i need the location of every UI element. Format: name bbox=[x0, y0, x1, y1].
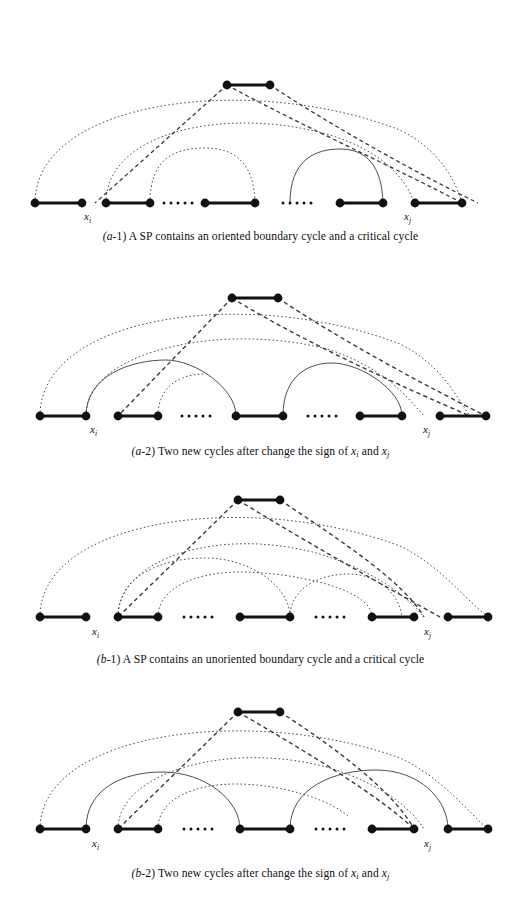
figure-container: xi xj (a-1) A SP contains an oriented bo… bbox=[0, 0, 521, 915]
node bbox=[201, 199, 210, 208]
node bbox=[114, 412, 123, 421]
node bbox=[276, 708, 285, 717]
node bbox=[356, 412, 365, 421]
node bbox=[484, 825, 493, 834]
node bbox=[82, 412, 91, 421]
ellipsis-left bbox=[181, 415, 212, 418]
label-xj: xj bbox=[422, 423, 430, 438]
arc-inner-left-solid bbox=[86, 772, 240, 829]
panel-b-1: xi xj bbox=[0, 462, 521, 652]
arc-inner-left-solid bbox=[86, 360, 236, 416]
arc-outer-dotted bbox=[40, 314, 470, 416]
ellipsis-right bbox=[315, 616, 346, 619]
node bbox=[234, 708, 243, 717]
node bbox=[154, 412, 163, 421]
arc-mid-dotted bbox=[106, 123, 414, 203]
node bbox=[274, 294, 283, 303]
node bbox=[398, 412, 407, 421]
node bbox=[286, 825, 295, 834]
arc-small-dotted bbox=[158, 374, 205, 416]
node bbox=[444, 825, 453, 834]
node bbox=[266, 81, 275, 90]
node bbox=[368, 825, 377, 834]
ellipsis-left bbox=[163, 202, 194, 205]
node bbox=[410, 825, 419, 834]
node bbox=[276, 496, 285, 505]
node bbox=[102, 199, 111, 208]
ellipsis-right bbox=[282, 202, 313, 205]
panel-b-2-graph: xi xj bbox=[0, 676, 521, 862]
node bbox=[236, 613, 245, 622]
node bbox=[36, 613, 45, 622]
node bbox=[484, 613, 493, 622]
node bbox=[154, 613, 163, 622]
label-xj: xj bbox=[423, 837, 431, 852]
node bbox=[482, 412, 491, 421]
ellipsis-left bbox=[183, 828, 214, 831]
caption-a-1: (a-1) A SP contains an oriented boundary… bbox=[0, 230, 521, 243]
ellipsis-right bbox=[315, 828, 346, 831]
arc-top-left-dashed bbox=[118, 500, 238, 617]
caption-b-1: (b-1) A SP contains an unoriented bounda… bbox=[0, 653, 521, 666]
label-xi: xi bbox=[83, 210, 91, 225]
panel-a-2-graph: xi xj bbox=[0, 248, 521, 438]
node bbox=[154, 825, 163, 834]
arc-inner-right-solid bbox=[283, 363, 402, 416]
caption-a-2: (a-2) Two new cycles after change the si… bbox=[0, 445, 521, 459]
panel-a-1-graph: xi xj bbox=[0, 30, 521, 225]
node bbox=[368, 613, 377, 622]
node bbox=[410, 613, 419, 622]
node bbox=[458, 199, 467, 208]
node bbox=[228, 294, 237, 303]
arc-top-left-dashed bbox=[118, 298, 232, 416]
node bbox=[82, 613, 91, 622]
node bbox=[82, 825, 91, 834]
arc-outer-dotted bbox=[40, 731, 488, 829]
panel-b-2: xi xj bbox=[0, 676, 521, 862]
arc-outer-dotted bbox=[40, 517, 488, 617]
node bbox=[223, 81, 232, 90]
label-xj: xj bbox=[423, 625, 431, 640]
arc-inner-left-dotted bbox=[118, 558, 290, 617]
label-xi: xi bbox=[89, 423, 97, 438]
arc-inner-mid-dotted bbox=[158, 784, 348, 829]
label-xj: xj bbox=[403, 210, 411, 225]
caption-b-2: (b-2) Two new cycles after change the si… bbox=[0, 867, 521, 881]
arc-top-far-dashed bbox=[270, 85, 478, 203]
node bbox=[444, 613, 453, 622]
arc-inner-right-solid bbox=[290, 770, 448, 829]
arc-inner-right-solid bbox=[290, 149, 383, 203]
arc-inner-right-dotted bbox=[290, 574, 402, 617]
label-xi: xi bbox=[91, 625, 99, 640]
arc-outer-dotted bbox=[35, 100, 462, 203]
arc-top-far-dashed bbox=[278, 298, 486, 416]
arc-inner-mid-dotted bbox=[158, 572, 372, 617]
node bbox=[78, 199, 87, 208]
node bbox=[411, 199, 420, 208]
panel-b-1-graph: xi xj bbox=[0, 462, 521, 652]
ellipsis-left bbox=[183, 616, 214, 619]
arc-mid-dotted bbox=[86, 339, 424, 416]
node bbox=[234, 496, 243, 505]
node bbox=[146, 199, 155, 208]
ellipsis-right bbox=[307, 415, 338, 418]
node bbox=[336, 199, 345, 208]
node bbox=[379, 199, 388, 208]
label-xi: xi bbox=[91, 837, 99, 852]
arc-top-right-dashed bbox=[232, 298, 470, 416]
arc-top-left-dashed bbox=[95, 85, 227, 203]
arc-mid-dotted bbox=[118, 544, 424, 617]
node bbox=[232, 412, 241, 421]
arc-top-left-dashed bbox=[118, 712, 238, 829]
node-group bbox=[31, 81, 467, 208]
arc-top-far-dashed bbox=[280, 500, 424, 617]
panel-a-1: xi xj bbox=[0, 30, 521, 225]
arc-mid-dotted bbox=[118, 758, 424, 829]
arc-top-right-dashed bbox=[238, 500, 440, 617]
node bbox=[236, 825, 245, 834]
node bbox=[251, 199, 260, 208]
node bbox=[114, 825, 123, 834]
node bbox=[286, 613, 295, 622]
arc-top-right-dashed bbox=[227, 85, 462, 203]
node bbox=[36, 825, 45, 834]
